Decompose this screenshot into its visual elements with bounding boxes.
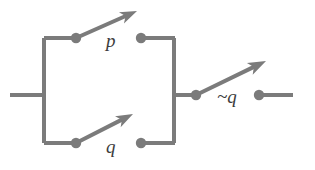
switch-node-p-right — [136, 33, 146, 43]
circuit-canvas: pq~q — [0, 0, 315, 170]
label-nq: ~q — [217, 86, 237, 107]
labels-group: pq~q — [104, 30, 237, 157]
label-q: q — [106, 136, 116, 157]
switch-node-q-left — [71, 138, 81, 148]
label-p: p — [104, 30, 116, 51]
switch-circuit-diagram: pq~q — [0, 0, 315, 170]
switch-arms-group — [76, 11, 266, 143]
switch-node-notq-right — [254, 90, 264, 100]
switch-node-q-right — [136, 138, 146, 148]
switch-node-p-left — [71, 33, 81, 43]
wires-group — [10, 38, 293, 143]
switch-node-notq-left — [191, 90, 201, 100]
open-switch-p-shaft — [76, 16, 125, 38]
